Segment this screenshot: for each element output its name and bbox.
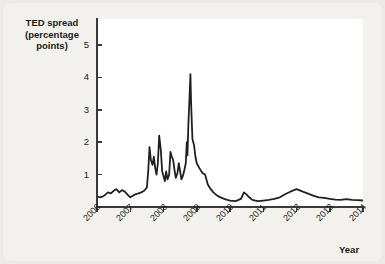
y-tick-label: 5: [73, 40, 89, 50]
y-axis-title-line-2: (percentage: [11, 29, 93, 41]
y-tick-label: 1: [73, 170, 89, 180]
y-tick-label: 3: [73, 105, 89, 115]
chart-page: TED spread (percentage points) Year 1234…: [0, 0, 385, 264]
y-axis-title-line-1: TED spread: [11, 17, 93, 29]
y-tick-mark: [97, 141, 102, 143]
figure-card: TED spread (percentage points) Year 1234…: [3, 3, 382, 261]
y-tick-label: 4: [73, 72, 89, 82]
x-tick-label: 2006: [81, 202, 102, 223]
x-axis-title: Year: [339, 244, 359, 255]
y-tick-mark: [97, 77, 102, 79]
ted-spread-line-series: [97, 19, 363, 207]
y-tick-mark: [97, 109, 102, 111]
y-tick-mark: [97, 174, 102, 176]
y-tick-label: 2: [73, 137, 89, 147]
y-axis-line: [96, 18, 98, 208]
ted-spread-line: [97, 74, 363, 201]
y-tick-mark: [97, 44, 102, 46]
